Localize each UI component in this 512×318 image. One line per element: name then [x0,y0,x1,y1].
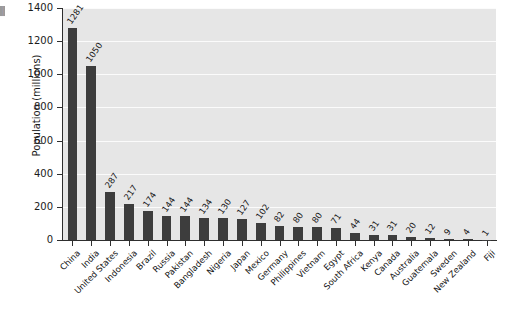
x-axis-tick [392,241,393,246]
bar-chart-figure: ███ Population (millions) 02004006008001… [0,0,512,318]
x-axis-tick [317,241,318,246]
bar-value-label: 80 [291,210,305,225]
x-axis-tick [374,241,375,246]
y-axis-tick-label: 800 [3,101,53,112]
bar-value-label: 134 [197,197,215,216]
y-axis-tick [57,174,62,175]
x-axis-tick [449,241,450,246]
x-axis-tick [487,241,488,246]
clipped-edge-caption: ███ [0,6,5,62]
bar[interactable] [199,218,209,240]
bar-value-label: 71 [329,212,343,227]
bar-value-label: 4 [461,227,472,237]
bar-slot: 82 [275,8,285,240]
bar[interactable] [86,66,96,240]
bar-slot: 12 [425,8,435,240]
bar-slot: 144 [162,8,172,240]
bar[interactable] [143,211,153,240]
bar-value-label: 31 [385,218,399,233]
bar-value-label: 174 [141,190,159,209]
bar[interactable] [293,227,303,240]
bar-value-label: 1 [479,228,490,238]
bar-value-label: 9 [442,226,453,236]
bar[interactable] [162,216,172,240]
bar-slot: 31 [388,8,398,240]
y-axis-tick-label: 0 [3,234,53,245]
bar-slot: 1281 [68,8,78,240]
bar-slot: 31 [369,8,379,240]
bar[interactable] [275,226,285,240]
bar-slot: 71 [331,8,341,240]
bar-value-label: 287 [103,171,121,190]
bar[interactable] [68,28,78,240]
bar[interactable] [312,227,322,240]
x-axis-tick [336,241,337,246]
bar[interactable] [425,238,435,240]
x-axis-tick [167,241,168,246]
y-axis-tick-label: 1000 [3,68,53,79]
bar[interactable] [237,219,247,240]
x-axis-tick [261,241,262,246]
y-axis-tick [57,74,62,75]
bar-slot: 134 [199,8,209,240]
bar-slot: 1 [482,8,492,240]
x-axis-tick [430,241,431,246]
bar-slot: 20 [406,8,416,240]
bar-value-label: 102 [253,202,271,221]
bar-value-label: 217 [122,183,140,202]
bar-value-label: 1281 [65,2,86,25]
x-axis-tick [148,241,149,246]
bar-slot: 287 [105,8,115,240]
x-axis-tick [110,241,111,246]
bar-slot: 80 [293,8,303,240]
bar-slot: 144 [180,8,190,240]
x-axis-tick [355,241,356,246]
x-axis-tick [280,241,281,246]
y-axis-tick-label: 1200 [3,35,53,46]
bar[interactable] [369,235,379,240]
bar-slot: 127 [237,8,247,240]
x-axis-tick [223,241,224,246]
bar-slot: 130 [218,8,228,240]
y-axis-tick [57,207,62,208]
bar-value-label: 144 [159,195,177,214]
bar[interactable] [444,239,454,240]
x-axis-tick [242,241,243,246]
y-axis-tick-label: 400 [3,168,53,179]
y-axis-tick [57,240,62,241]
bar[interactable] [180,216,190,240]
bar-value-label: 12 [423,221,437,236]
bar[interactable] [105,192,115,240]
x-axis-tick [204,241,205,246]
bar-value-label: 130 [216,197,234,216]
bar[interactable] [256,223,266,240]
x-axis-tick [411,241,412,246]
x-axis-tick [91,241,92,246]
bar-value-label: 144 [178,195,196,214]
bar[interactable] [406,237,416,240]
bar-slot: 174 [143,8,153,240]
y-axis-tick [57,107,62,108]
y-axis-tick-label: 1400 [3,2,53,13]
y-axis-tick [57,141,62,142]
bar[interactable] [124,204,134,240]
bar[interactable] [331,228,341,240]
x-axis-tick [298,241,299,246]
y-axis-tick [57,8,62,9]
bar-value-label: 82 [272,210,286,225]
x-axis-tick [72,241,73,246]
y-axis-tick-label: 600 [3,135,53,146]
bar-slot: 9 [444,8,454,240]
bars-layer: 1281105028721717414414413413012710282808… [63,8,496,240]
bar-value-label: 20 [404,220,418,235]
bar[interactable] [388,235,398,240]
bar[interactable] [218,218,228,240]
bar[interactable] [350,233,360,240]
clipped-edge-caption-text: ███ [0,6,1,17]
bar-slot: 102 [256,8,266,240]
y-axis-tick [57,41,62,42]
bar[interactable] [463,239,473,240]
bar-value-label: 80 [310,210,324,225]
bar-slot: 4 [463,8,473,240]
bar-value-label: 31 [366,218,380,233]
